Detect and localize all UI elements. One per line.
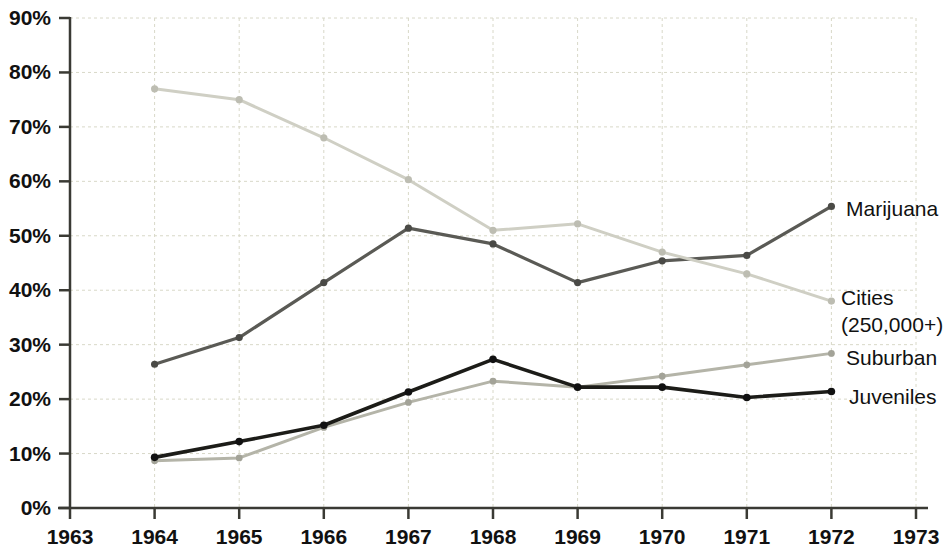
y-tick-label-10: 10% <box>9 442 51 465</box>
x-tick-label-1970: 1970 <box>639 525 686 548</box>
series-label-suburban: Suburban <box>846 346 937 369</box>
data-point-juveniles-1967 <box>405 388 413 396</box>
data-point-suburban-1971 <box>743 361 750 368</box>
series-label-cities-line1: Cities <box>841 286 894 309</box>
x-tick-label-1963: 1963 <box>47 525 94 548</box>
data-point-cities-250-000-1969 <box>574 220 581 227</box>
x-tick-label-1971: 1971 <box>723 525 770 548</box>
series-inline-labels: Marijuana Cities (250,000+) Suburban Juv… <box>841 197 943 408</box>
data-point-cities-250-000-1970 <box>659 249 666 256</box>
data-point-cities-250-000-1967 <box>405 176 412 183</box>
data-point-suburban-1970 <box>659 373 666 380</box>
data-point-suburban-1967 <box>405 399 412 406</box>
y-tick-label-60: 60% <box>9 169 51 192</box>
data-point-marijuana-1969 <box>574 279 581 286</box>
y-tick-label-70: 70% <box>9 115 51 138</box>
x-tick-label-1967: 1967 <box>385 525 432 548</box>
data-point-juveniles-1969 <box>574 383 582 391</box>
chart-canvas: 0%10%20%30%40%50%60%70%80%90% 1963196419… <box>0 0 944 549</box>
data-point-juveniles-1968 <box>489 356 497 364</box>
data-point-juveniles-1972 <box>828 388 836 396</box>
y-tick-label-50: 50% <box>9 224 51 247</box>
line-chart: 0%10%20%30%40%50%60%70%80%90% 1963196419… <box>0 0 944 549</box>
x-tick-label-1972: 1972 <box>808 525 855 548</box>
data-point-cities-250-000-1966 <box>320 134 327 141</box>
series-label-marijuana: Marijuana <box>846 197 939 220</box>
data-point-juveniles-1966 <box>320 421 328 429</box>
data-point-marijuana-1970 <box>659 257 666 264</box>
data-point-marijuana-1967 <box>405 225 412 232</box>
data-point-marijuana-1966 <box>320 279 327 286</box>
y-tick-label-80: 80% <box>9 60 51 83</box>
y-tick-label-0: 0% <box>21 496 52 519</box>
data-point-suburban-1972 <box>828 350 835 357</box>
data-point-marijuana-1972 <box>828 203 835 210</box>
data-point-cities-250-000-1971 <box>743 270 750 277</box>
data-point-juveniles-1970 <box>658 383 666 391</box>
series-label-cities-line2: (250,000+) <box>841 313 943 336</box>
data-point-cities-250-000-1965 <box>236 96 243 103</box>
y-tick-label-40: 40% <box>9 278 51 301</box>
data-point-juveniles-1965 <box>235 438 243 446</box>
y-tick-label-20: 20% <box>9 387 51 410</box>
data-point-cities-250-000-1972 <box>828 298 835 305</box>
series-label-juveniles: Juveniles <box>849 385 937 408</box>
x-tick-label-1965: 1965 <box>216 525 263 548</box>
data-point-cities-250-000-1964 <box>151 85 158 92</box>
data-point-marijuana-1968 <box>489 240 496 247</box>
series-markers <box>151 85 835 464</box>
data-point-marijuana-1971 <box>743 252 750 259</box>
data-point-marijuana-1964 <box>151 361 158 368</box>
x-tick-label-1968: 1968 <box>470 525 517 548</box>
x-tick-label-1964: 1964 <box>131 525 178 548</box>
x-tick-label-1969: 1969 <box>554 525 601 548</box>
data-point-juveniles-1971 <box>743 394 751 402</box>
x-axis-tick-labels: 1963196419651966196719681969197019711972… <box>47 525 940 548</box>
data-point-suburban-1968 <box>490 378 497 385</box>
y-tick-label-90: 90% <box>9 6 51 29</box>
data-point-juveniles-1964 <box>151 454 159 462</box>
data-point-suburban-1965 <box>236 455 243 462</box>
y-axis-tick-labels: 0%10%20%30%40%50%60%70%80%90% <box>9 6 51 519</box>
y-tick-label-30: 30% <box>9 333 51 356</box>
x-tick-label-1973: 1973 <box>893 525 940 548</box>
data-point-cities-250-000-1968 <box>489 227 496 234</box>
data-point-marijuana-1965 <box>236 334 243 341</box>
x-tick-label-1966: 1966 <box>300 525 347 548</box>
